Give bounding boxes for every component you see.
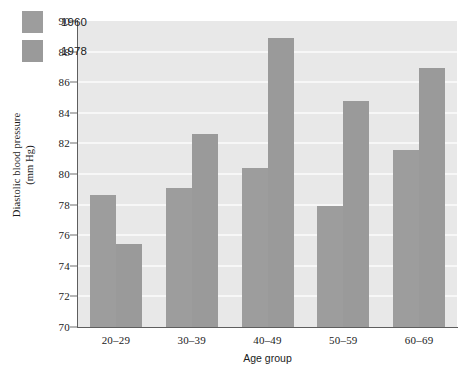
x-axis-tick-label: 20–29 <box>102 334 131 346</box>
legend-swatch-1960 <box>22 11 43 33</box>
bar-1960-50-59 <box>317 206 343 327</box>
legend-label-1960: 1960 <box>61 16 87 28</box>
y-axis-tick-label: 70 <box>46 321 70 333</box>
y-axis-tick-label: 80 <box>46 168 70 180</box>
plot-area <box>78 21 457 327</box>
bar-1978-30-39 <box>192 134 218 327</box>
x-axis-title: Age group <box>78 352 457 364</box>
y-axis-tick-label: 84 <box>46 107 70 119</box>
x-axis-tick-label: 30–39 <box>177 334 206 346</box>
bar-1960-20-29 <box>90 195 116 327</box>
x-axis-tick-labels: 20–2930–3940–4950–5960–69 <box>78 334 457 350</box>
y-axis-tick-label: 72 <box>46 290 70 302</box>
y-axis-title-line-2: (mm Hg) <box>23 113 36 217</box>
bar-1960-60-69 <box>393 150 419 327</box>
bar-1960-30-39 <box>166 188 192 327</box>
x-axis-tick-label: 40–49 <box>253 334 282 346</box>
y-axis-title-line-1: Diastolic blood pressure <box>11 113 22 217</box>
y-axis-tick-label: 86 <box>46 76 70 88</box>
legend-swatch-1978 <box>22 40 43 62</box>
legend-entry-1960: 1960 <box>22 8 87 35</box>
y-axis-tick-label: 82 <box>46 137 70 149</box>
x-axis-tick-label: 60–69 <box>405 334 434 346</box>
bar-1978-60-69 <box>419 68 445 327</box>
chart-legend: 19601978 <box>22 8 87 66</box>
x-axis-tick-label: 50–59 <box>329 334 358 346</box>
x-axis-line <box>77 327 458 328</box>
bar-1960-40-49 <box>242 168 268 327</box>
legend-entry-1978: 1978 <box>22 37 87 64</box>
bar-1978-40-49 <box>268 38 294 327</box>
y-axis-tick-label: 78 <box>46 199 70 211</box>
bar-1978-20-29 <box>116 244 142 327</box>
y-axis-tick-labels: 7072747678808284868890 <box>46 21 70 327</box>
y-axis-tick-label: 74 <box>46 260 70 272</box>
bar-series-container <box>78 21 457 327</box>
bar-chart-figure: Diastolic blood pressure (mm Hg) 7072747… <box>0 0 468 373</box>
legend-label-1978: 1978 <box>61 45 87 57</box>
bar-1978-50-59 <box>343 101 369 327</box>
y-axis-tick-label: 76 <box>46 229 70 241</box>
